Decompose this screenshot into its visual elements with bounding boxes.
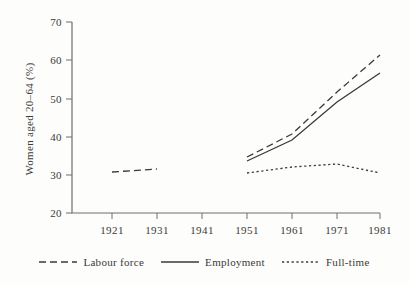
legend-item-labour-force: Labour force	[39, 256, 144, 268]
legend-label-labour-force: Labour force	[83, 256, 144, 268]
y-axis-label: Women aged 20–64 (%)	[23, 39, 35, 199]
chart-figure: Women aged 20–64 (%) 70 60 50 40 30 20 1…	[0, 0, 409, 285]
x-tick-1971: 1971	[317, 224, 357, 236]
legend-label-full-time: Full-time	[326, 256, 370, 268]
y-tick-50: 50	[38, 93, 62, 105]
chart-legend: Labour force Employment Full-time	[0, 252, 409, 272]
y-tick-30: 30	[38, 169, 62, 181]
x-tick-1961: 1961	[272, 224, 312, 236]
y-tick-40: 40	[38, 131, 62, 143]
legend-swatch-solid-icon	[161, 258, 199, 266]
x-axis-ticks	[112, 213, 380, 219]
x-tick-1951: 1951	[227, 224, 267, 236]
series-labour-force-early	[112, 169, 157, 172]
legend-item-full-time: Full-time	[282, 256, 370, 268]
y-tick-20: 20	[38, 207, 62, 219]
x-tick-1981: 1981	[360, 224, 400, 236]
legend-swatch-dashed-icon	[39, 258, 77, 266]
axis-lines	[72, 22, 380, 213]
y-tick-70: 70	[38, 16, 62, 28]
legend-swatch-dotted-icon	[282, 258, 320, 266]
legend-item-employment: Employment	[161, 256, 265, 268]
series-full-time	[247, 164, 380, 173]
y-axis-ticks	[66, 22, 72, 213]
legend-label-employment: Employment	[205, 256, 265, 268]
x-tick-1941: 1941	[182, 224, 222, 236]
series-labour-force	[247, 55, 380, 157]
y-tick-60: 60	[38, 54, 62, 66]
series-employment	[247, 73, 380, 161]
x-tick-1931: 1931	[137, 224, 177, 236]
x-tick-1921: 1921	[92, 224, 132, 236]
